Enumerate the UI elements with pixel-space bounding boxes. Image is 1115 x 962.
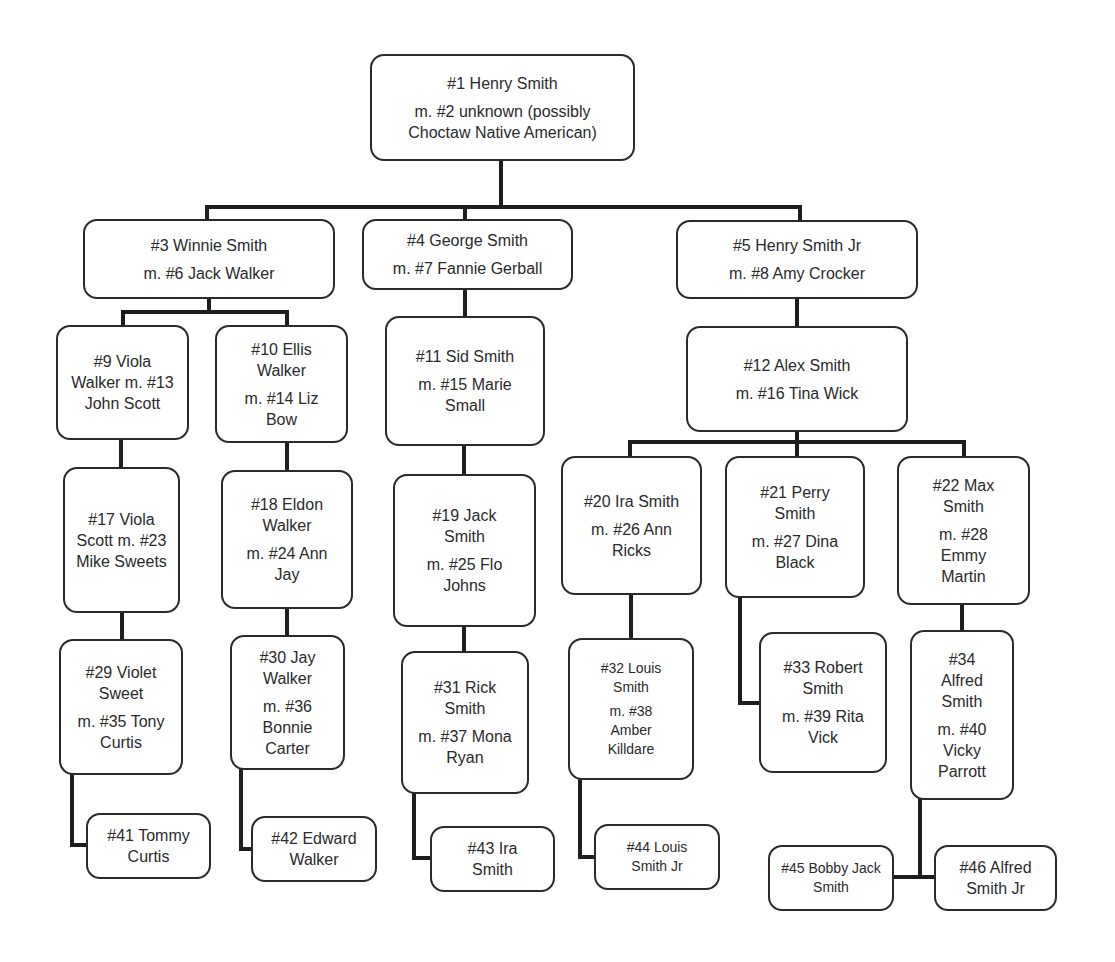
spouse-name: m. #37 Mona Ryan bbox=[415, 726, 515, 768]
person-node-19: #19 Jack Smith m. #25 Flo Johns bbox=[393, 474, 536, 627]
person-node-3: #3 Winnie Smith m. #6 Jack Walker bbox=[83, 219, 335, 299]
spouse-name: m. #6 Jack Walker bbox=[144, 263, 275, 284]
connector-1-children bbox=[207, 160, 800, 219]
person-node-29: #29 Violet Sweet m. #35 Tony Curtis bbox=[59, 639, 183, 775]
person-name: #20 Ira Smith bbox=[584, 491, 679, 512]
spouse-name: m. #14 Liz Bow bbox=[237, 388, 327, 430]
person-name: #41 Tommy Curtis bbox=[94, 825, 204, 867]
person-name: #44 Louis Smith Jr bbox=[607, 838, 707, 876]
spouse-name: m. #35 Tony Curtis bbox=[71, 711, 171, 753]
person-name: #9 Viola Walker m. #13 John Scott bbox=[68, 351, 178, 414]
spouse-name: m. #39 Rita Vick bbox=[773, 706, 873, 748]
person-node-33: #33 Robert Smith m. #39 Rita Vick bbox=[759, 632, 887, 773]
person-name: #17 Viola Scott m. #23 Mike Sweets bbox=[74, 509, 169, 572]
person-name: #32 Louis Smith bbox=[591, 659, 671, 697]
connector-34-grandchildren bbox=[893, 798, 935, 877]
person-name: #43 Ira Smith bbox=[453, 838, 533, 880]
person-name: #22 Max Smith bbox=[924, 475, 1004, 517]
person-node-21: #21 Perry Smith m. #27 Dina Black bbox=[725, 456, 865, 598]
person-name: #46 Alfred Smith Jr bbox=[946, 857, 1046, 899]
family-tree-diagram: #1 Henry Smith m. #2 unknown (possibly C… bbox=[0, 0, 1115, 962]
person-name: #4 George Smith bbox=[407, 230, 528, 251]
person-name: #18 Eldon Walker bbox=[242, 494, 332, 536]
connector-3-children bbox=[123, 297, 287, 325]
spouse-name: m. #38 Amber Killdare bbox=[596, 702, 666, 759]
spouse-name: m. #24 Ann Jay bbox=[232, 543, 342, 585]
person-node-30: #30 Jay Walker m. #36 Bonnie Carter bbox=[230, 635, 345, 770]
person-node-5: #5 Henry Smith Jr m. #8 Amy Crocker bbox=[676, 220, 918, 299]
person-node-44: #44 Louis Smith Jr bbox=[594, 824, 720, 890]
person-node-46: #46 Alfred Smith Jr bbox=[934, 845, 1057, 911]
person-name: #12 Alex Smith bbox=[744, 355, 851, 376]
spouse-name: m. #15 Marie Small bbox=[405, 374, 525, 416]
spouse-name: m. #26 Ann Ricks bbox=[582, 519, 682, 561]
person-name: #21 Perry Smith bbox=[750, 482, 840, 524]
spouse-name: m. #28 Emmy Martin bbox=[924, 524, 1004, 587]
spouse-name: m. #2 unknown (possibly Choctaw Native A… bbox=[393, 101, 613, 143]
person-node-34: #34 Alfred Smith m. #40 Vicky Parrott bbox=[910, 630, 1014, 800]
person-node-1: #1 Henry Smith m. #2 unknown (possibly C… bbox=[370, 54, 635, 161]
person-node-20: #20 Ira Smith m. #26 Ann Ricks bbox=[561, 456, 702, 595]
spouse-name: m. #36 Bonnie Carter bbox=[253, 696, 323, 759]
person-node-10: #10 Ellis Walker m. #14 Liz Bow bbox=[215, 325, 348, 443]
person-node-32: #32 Louis Smith m. #38 Amber Killdare bbox=[568, 638, 694, 780]
person-name: #29 Violet Sweet bbox=[76, 662, 166, 704]
spouse-name: m. #27 Dina Black bbox=[740, 531, 850, 573]
person-name: #31 Rick Smith bbox=[425, 677, 505, 719]
spouse-name: m. #40 Vicky Parrott bbox=[927, 719, 997, 782]
person-node-41: #41 Tommy Curtis bbox=[86, 813, 211, 879]
person-name: #34 Alfred Smith bbox=[927, 649, 997, 712]
person-name: #10 Ellis Walker bbox=[237, 339, 327, 381]
spouse-name: m. #8 Amy Crocker bbox=[729, 263, 865, 284]
spouse-name: m. #25 Flo Johns bbox=[415, 554, 515, 596]
person-name: #33 Robert Smith bbox=[773, 657, 873, 699]
person-node-42: #42 Edward Walker bbox=[251, 816, 377, 882]
person-node-9: #9 Viola Walker m. #13 John Scott bbox=[56, 325, 189, 440]
spouse-name: m. #7 Fannie Gerball bbox=[393, 258, 542, 279]
person-node-17: #17 Viola Scott m. #23 Mike Sweets bbox=[63, 467, 180, 613]
person-name: #11 Sid Smith bbox=[416, 346, 514, 367]
person-node-22: #22 Max Smith m. #28 Emmy Martin bbox=[897, 456, 1030, 605]
person-name: #42 Edward Walker bbox=[259, 828, 369, 870]
person-node-45: #45 Bobby Jack Smith bbox=[768, 845, 894, 911]
person-name: #30 Jay Walker bbox=[248, 647, 328, 689]
person-name: #3 Winnie Smith bbox=[151, 235, 268, 256]
person-node-18: #18 Eldon Walker m. #24 Ann Jay bbox=[221, 470, 353, 609]
connector-12-children bbox=[630, 431, 964, 456]
person-node-31: #31 Rick Smith m. #37 Mona Ryan bbox=[401, 651, 529, 794]
person-node-12: #12 Alex Smith m. #16 Tina Wick bbox=[686, 326, 908, 432]
spouse-name: m. #16 Tina Wick bbox=[736, 383, 859, 404]
person-node-11: #11 Sid Smith m. #15 Marie Small bbox=[385, 316, 545, 446]
person-name: #1 Henry Smith bbox=[447, 73, 557, 94]
person-node-43: #43 Ira Smith bbox=[430, 826, 555, 892]
person-name: #19 Jack Smith bbox=[420, 505, 510, 547]
connector-31-43 bbox=[414, 792, 431, 858]
person-node-4: #4 George Smith m. #7 Fannie Gerball bbox=[362, 219, 573, 290]
person-name: #45 Bobby Jack Smith bbox=[781, 859, 881, 897]
person-name: #5 Henry Smith Jr bbox=[733, 235, 861, 256]
